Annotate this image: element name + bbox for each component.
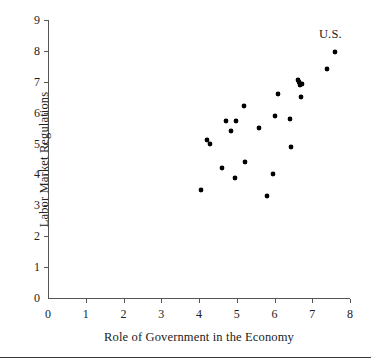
x-tick-label: 2 [115,308,133,320]
x-tick-label: 0 [39,308,57,320]
data-point [265,194,269,198]
x-axis-title: Role of Government in the Economy [48,330,350,345]
x-tick-label: 1 [77,308,95,320]
data-point [300,82,304,86]
data-point [199,188,203,192]
data-point [242,104,246,108]
x-tick-label: 8 [341,308,359,320]
footer-divider-rule [0,357,371,358]
data-point [208,142,212,146]
data-point [233,176,237,180]
scatter-chart-figure: 0123456780123456789U.S.Role of Governmen… [0,0,371,364]
data-point [257,126,261,130]
data-point [273,114,277,118]
data-point [276,92,280,96]
x-tick-label: 7 [303,308,321,320]
x-tick-label: 5 [228,308,246,320]
x-tick-mark [124,299,125,303]
point-annotation-u-s: U.S. [319,27,342,42]
x-tick-label: 6 [266,308,284,320]
data-point [289,145,293,149]
x-tick-mark [275,299,276,303]
data-point [234,119,238,123]
y-tick-mark [44,20,48,21]
x-tick-mark [161,299,162,303]
y-tick-label: 9 [26,14,40,26]
x-tick-mark [237,299,238,303]
x-tick-mark [199,299,200,303]
data-point [243,160,247,164]
x-tick-mark [350,299,351,303]
y-axis-title: Labor Market Regulations [37,30,52,290]
x-tick-mark [312,299,313,303]
data-point [229,129,233,133]
data-point [220,166,224,170]
data-point [325,67,329,71]
y-tick-label: 0 [26,292,40,304]
x-tick-label: 3 [152,308,170,320]
data-point [224,119,228,123]
data-point [288,117,292,121]
data-point [271,172,275,176]
x-tick-label: 4 [190,308,208,320]
x-tick-mark [86,299,87,303]
data-point [299,95,303,99]
data-point [333,50,337,54]
